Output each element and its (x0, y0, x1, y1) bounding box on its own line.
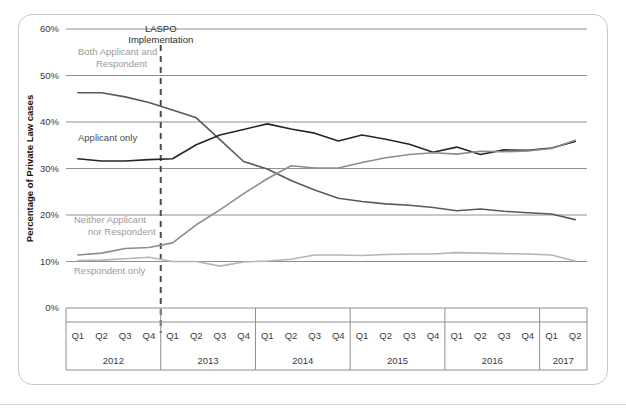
y-axis-tick-label: 10% (40, 256, 60, 267)
x-axis-quarter-label: Q2 (95, 330, 108, 341)
x-axis-year-label: 2012 (103, 355, 124, 366)
series-line-neither-applicant-nor-respondent (78, 140, 575, 255)
x-axis-quarter-label: Q3 (498, 330, 511, 341)
x-axis-quarter-label: Q4 (427, 330, 440, 341)
annotation-neither-2: nor Respondent (88, 226, 156, 237)
laspo-label-line1: LASPO (145, 23, 177, 34)
y-axis-tick-label: 20% (40, 209, 60, 220)
y-axis-tick-label: 40% (40, 116, 60, 127)
x-axis-year-label: 2014 (292, 355, 313, 366)
x-axis-quarter-label: Q2 (190, 330, 203, 341)
y-axis-tick-label: 0% (45, 302, 59, 313)
annotation-both-applicant-and-respondent-1: Both Applicant and (78, 46, 157, 57)
series-line-applicant-only (78, 124, 575, 161)
series-line-respondent-only (78, 253, 575, 266)
x-axis-quarter-label: Q4 (521, 330, 534, 341)
annotation-applicant-only: Applicant only (78, 132, 137, 143)
x-axis-quarter-label: Q3 (308, 330, 321, 341)
x-axis-quarter-label: Q1 (356, 330, 369, 341)
line-chart: 0%10%20%30%40%50%60%Percentage of Privat… (19, 15, 609, 386)
x-axis-year-label: 2015 (387, 355, 408, 366)
y-axis-tick-label: 60% (40, 23, 60, 34)
x-axis-quarter-label: Q1 (545, 330, 558, 341)
x-axis-quarter-label: Q1 (450, 330, 463, 341)
x-axis-year-label: 2016 (482, 355, 503, 366)
x-axis-quarter-label: Q2 (285, 330, 298, 341)
x-axis-quarter-label: Q1 (261, 330, 274, 341)
x-axis-quarter-label: Q2 (474, 330, 487, 341)
y-axis-title: Percentage of Private Law cases (24, 95, 35, 242)
x-axis-quarter-label: Q3 (403, 330, 416, 341)
x-axis-quarter-label: Q1 (166, 330, 179, 341)
annotation-respondent-only: Respondent only (74, 265, 146, 276)
series-line-both-applicant-and-respondent (78, 93, 575, 220)
x-axis-year-label: 2013 (198, 355, 219, 366)
y-axis-tick-label: 50% (40, 70, 60, 81)
laspo-label-line2: Implementation (128, 34, 193, 45)
annotation-neither-1: Neither Applicant (74, 214, 146, 225)
x-axis-quarter-label: Q3 (119, 330, 132, 341)
figure-card: 0%10%20%30%40%50%60%Percentage of Privat… (18, 14, 608, 385)
x-axis-quarter-label: Q4 (143, 330, 156, 341)
x-axis-quarter-label: Q4 (237, 330, 250, 341)
x-axis-quarter-label: Q4 (332, 330, 345, 341)
page-divider (0, 404, 626, 405)
x-axis-quarter-label: Q3 (214, 330, 227, 341)
x-axis-quarter-label: Q1 (71, 330, 84, 341)
x-axis-year-label: 2017 (553, 355, 574, 366)
y-axis-tick-label: 30% (40, 163, 60, 174)
annotation-both-applicant-and-respondent-2: Respondent (96, 58, 148, 69)
x-axis-quarter-label: Q2 (569, 330, 582, 341)
x-axis-quarter-label: Q2 (379, 330, 392, 341)
